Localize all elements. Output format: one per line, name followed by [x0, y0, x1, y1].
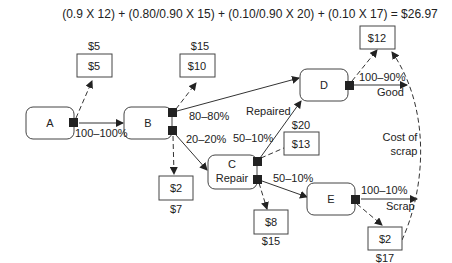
cost-box-a: $5 $5 — [77, 40, 112, 77]
node-b: B — [124, 107, 172, 139]
label-d-out: 100–90% — [359, 71, 406, 83]
label-a-to-b: 100–100% — [75, 127, 128, 139]
cost-box-e-scrap: $2 $17 — [368, 227, 402, 263]
label-cost-of: Cost of — [383, 131, 419, 143]
label-scrap-return: scrap — [391, 145, 418, 157]
cost-box-d: $12 — [360, 26, 395, 49]
cost-e-scrap-cumulative: $17 — [376, 252, 394, 263]
cost-a-value: $5 — [88, 60, 100, 72]
connector-b-bottom — [168, 126, 177, 135]
node-c-label: C — [228, 158, 236, 170]
label-c-to-e: 50–10% — [273, 172, 314, 184]
cost-c-scrap-value: $8 — [265, 216, 277, 228]
label-e-out: 100–10% — [361, 184, 408, 196]
cost-b-value: $10 — [188, 60, 206, 72]
label-b-to-d: 80–80% — [189, 110, 230, 122]
cost-box-c-scrap: $8 $15 — [254, 210, 288, 247]
label-repaired: Repaired — [246, 105, 291, 117]
dashed-b-to-scrap — [173, 136, 174, 174]
node-a: A — [26, 107, 74, 139]
label-good: Good — [377, 86, 404, 98]
dashed-c-to-scrap-cost — [259, 183, 267, 209]
connector-d — [345, 81, 354, 90]
dashed-b-to-cost — [176, 83, 196, 109]
cost-a-cumulative: $5 — [88, 40, 100, 52]
cost-e-scrap-value: $2 — [379, 233, 391, 245]
dashed-a-to-cost — [76, 81, 92, 118]
cost-b-scrap-cumulative: $7 — [170, 203, 182, 215]
cost-c-scrap-cumulative: $15 — [262, 235, 280, 247]
cost-box-b-scrap: $2 $7 — [159, 176, 193, 215]
cost-d-value: $12 — [368, 32, 386, 44]
label-b-to-c: 20–20% — [186, 133, 227, 145]
node-d: D — [300, 69, 348, 101]
connector-c-top — [253, 157, 262, 166]
node-a-label: A — [46, 117, 54, 129]
connector-b-top — [168, 108, 177, 117]
cost-c-repair-value: $13 — [292, 138, 310, 150]
node-b-label: B — [144, 117, 151, 129]
node-e: E — [307, 183, 355, 215]
label-scrap: Scrap — [386, 200, 415, 212]
node-c-sublabel: Repair — [216, 172, 249, 184]
process-cost-diagram: (0.9 X 12) + (0.80/0.90 X 15) + (0.10/0.… — [0, 0, 452, 263]
label-c-to-d: 50–10% — [233, 132, 274, 144]
dashed-e-to-scrap — [357, 204, 382, 225]
connector-a — [69, 118, 78, 127]
connector-c-bottom — [253, 175, 262, 184]
connector-e — [351, 195, 360, 204]
node-e-label: E — [327, 193, 334, 205]
cost-b-scrap-value: $2 — [170, 182, 182, 194]
cost-b-cumulative: $15 — [191, 40, 209, 52]
cost-formula: (0.9 X 12) + (0.80/0.90 X 15) + (0.10/0.… — [62, 7, 438, 21]
cost-box-c-repair: $20 $13 — [284, 119, 319, 155]
cost-c-repair-cumulative: $20 — [292, 119, 310, 131]
node-d-label: D — [320, 79, 328, 91]
cost-box-b: $15 $10 — [180, 40, 215, 77]
node-c: C Repair — [208, 155, 257, 189]
